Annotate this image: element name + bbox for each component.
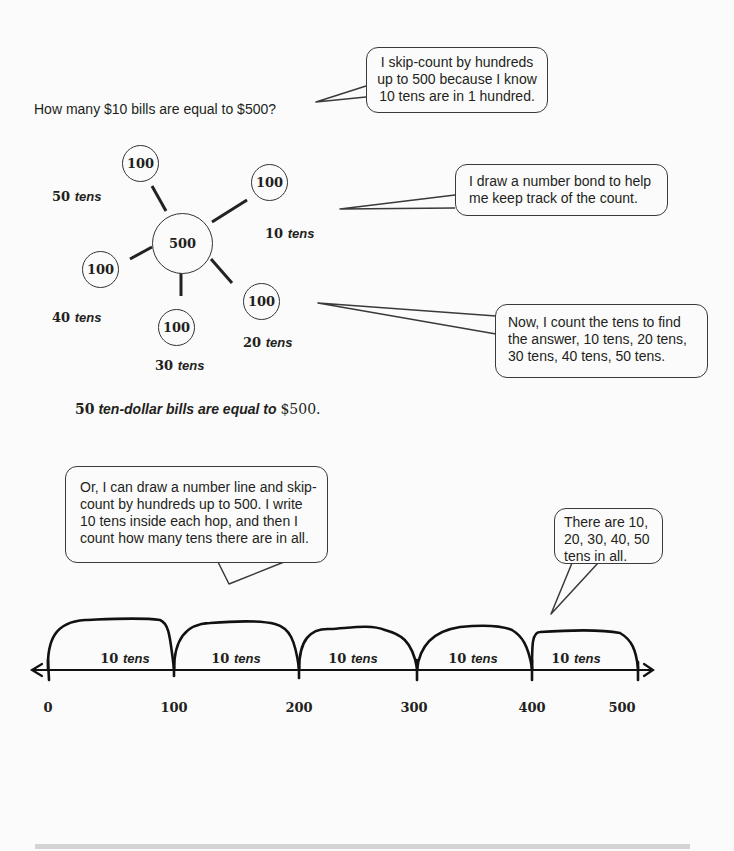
tens-label-40: 40 tens: [52, 310, 101, 325]
tick-label: 300: [400, 700, 427, 715]
answer-sentence: 50 ten-dollar bills are equal to $500.: [75, 401, 321, 417]
bubble-tail: [551, 563, 598, 614]
bubble-tail: [316, 86, 366, 102]
bubble-tail: [340, 195, 455, 209]
speech-bubble-in-all: There are 10, 20, 30, 40, 50 tens in all…: [554, 508, 663, 564]
speech-bubble-skip-count: I skip-count by hundreds up to 500 becau…: [366, 47, 548, 113]
tick-label: 200: [285, 700, 312, 715]
hop-label: 10 tens: [211, 651, 260, 666]
hop-label: 10 tens: [551, 651, 600, 666]
whole-circle: 500: [152, 213, 213, 274]
page-bottom-rule: [35, 844, 690, 849]
speech-bubble-count-tens: Now, I count the tens to find the answer…: [495, 304, 708, 378]
bubble-text: There are 10, 20, 30, 40, 50 tens in all…: [564, 514, 658, 565]
bubble-text: Or, I can draw a number line and skip-co…: [80, 479, 317, 547]
hop-label: 10 tens: [328, 651, 377, 666]
tens-label-10: 10 tens: [265, 226, 314, 241]
part-circle: 100: [243, 283, 280, 320]
tens-label-20: 20 tens: [243, 335, 292, 350]
tens-label-30: 30 tens: [155, 358, 204, 373]
part-circle: 100: [158, 309, 195, 346]
part-circle: 100: [122, 145, 159, 182]
tick-label: 500: [608, 700, 635, 715]
tens-label-50: 50 tens: [52, 189, 101, 204]
bubble-tail: [218, 562, 284, 584]
part-circle: 100: [251, 164, 288, 201]
part-circle: 100: [82, 251, 119, 288]
hop-label: 10 tens: [100, 651, 149, 666]
drawing-layer: [0, 0, 734, 851]
bubble-tail: [318, 303, 496, 334]
bubble-text: Now, I count the tens to find the answer…: [508, 314, 699, 365]
speech-bubble-number-line: Or, I can draw a number line and skip-co…: [65, 466, 328, 563]
tick-label: 400: [518, 700, 545, 715]
speech-bubble-number-bond: I draw a number bond to help me keep tra…: [455, 164, 668, 216]
tick-label: 100: [160, 700, 187, 715]
bubble-text: I skip-count by hundreds up to 500 becau…: [377, 54, 537, 105]
bubble-text: I draw a number bond to help me keep tra…: [469, 173, 667, 207]
hop-label: 10 tens: [448, 651, 497, 666]
tick-label: 0: [43, 700, 52, 715]
